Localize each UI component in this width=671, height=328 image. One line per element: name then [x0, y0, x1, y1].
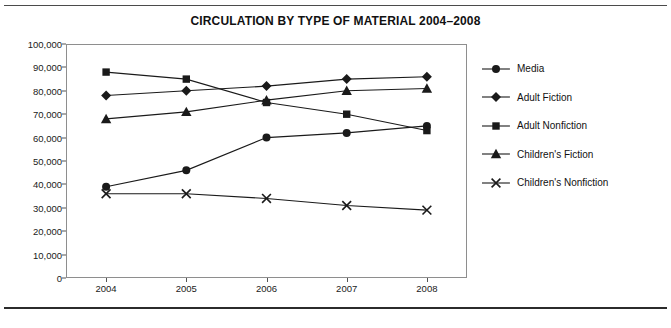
series-data-point [182, 166, 190, 174]
series-data-point [422, 83, 432, 92]
y-axis-tick-label: 60,000 [4, 132, 62, 143]
y-axis-tick-label: 0 [4, 273, 62, 284]
series-data-point [343, 111, 350, 118]
legend-item-adult-nonfiction[interactable]: Adult Nonfiction [482, 113, 667, 138]
x-axis-tick [186, 278, 187, 282]
y-axis-tick-label: 70,000 [4, 109, 62, 120]
series-data-point [102, 68, 109, 75]
series-data-point [101, 90, 111, 100]
x-axis-tick [427, 278, 428, 282]
y-axis-tick-label: 90,000 [4, 62, 62, 73]
legend-label: Children's Nonfiction [517, 177, 608, 188]
bottom-rule [4, 307, 667, 309]
y-axis: 100,00090,00080,00070,00060,00050,00040,… [0, 44, 62, 278]
square-marker-icon [482, 118, 510, 134]
series-data-point [342, 74, 352, 84]
series-data-point [263, 134, 271, 142]
x-axis-tick [106, 278, 107, 282]
y-axis-tick-label: 10,000 [4, 249, 62, 260]
plot-series-layer [66, 44, 467, 278]
y-axis-tick-label: 50,000 [4, 156, 62, 167]
y-axis-tick-label: 20,000 [4, 226, 62, 237]
x-axis-tick [267, 278, 268, 282]
y-axis-tick-label: 80,000 [4, 85, 62, 96]
circle-marker-icon [482, 61, 510, 77]
chart-legend: MediaAdult FictionAdult NonfictionChildr… [482, 56, 667, 199]
legend-label: Children's Fiction [517, 149, 593, 160]
series-data-point [102, 183, 110, 191]
legend-label: Media [517, 63, 544, 74]
x-axis-tick-label: 2004 [96, 283, 117, 294]
chart-title: CIRCULATION BY TYPE OF MATERIAL 2004–200… [0, 14, 671, 28]
series-line [106, 194, 427, 210]
series-data-point [423, 127, 430, 134]
x-axis-tick-label: 2005 [176, 283, 197, 294]
figure-page: CIRCULATION BY TYPE OF MATERIAL 2004–200… [0, 0, 671, 328]
y-axis-tick-label: 30,000 [4, 202, 62, 213]
legend-item-children-s-fiction[interactable]: Children's Fiction [482, 142, 667, 167]
triangle-marker-icon [482, 146, 510, 162]
top-rule [4, 5, 667, 6]
series-data-point [262, 81, 272, 91]
x-axis-tick-label: 2007 [336, 283, 357, 294]
x-axis-tick-label: 2006 [256, 283, 277, 294]
cross-marker-icon [482, 175, 510, 191]
legend-label: Adult Nonfiction [517, 120, 587, 131]
legend-item-adult-fiction[interactable]: Adult Fiction [482, 85, 667, 110]
x-axis: 20042005200620072008 [66, 283, 467, 299]
diamond-marker-icon [482, 89, 510, 105]
series-data-point [343, 129, 351, 137]
legend-item-media[interactable]: Media [482, 56, 667, 81]
series-data-point [181, 86, 191, 96]
legend-item-children-s-nonfiction[interactable]: Children's Nonfiction [482, 170, 667, 195]
x-axis-tick [347, 278, 348, 282]
x-axis-tick-label: 2008 [416, 283, 437, 294]
series-data-point [422, 72, 432, 82]
y-axis-tick-label: 100,000 [4, 39, 62, 50]
legend-label: Adult Fiction [517, 92, 572, 103]
series-data-point [183, 75, 190, 82]
y-axis-tick-label: 40,000 [4, 179, 62, 190]
